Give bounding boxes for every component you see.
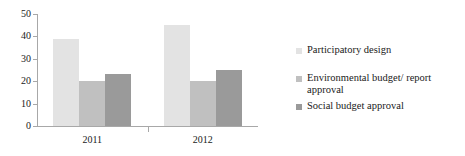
- legend-swatch-icon: [296, 48, 302, 54]
- bar: [164, 25, 190, 126]
- y-axis-tick: [33, 81, 37, 82]
- y-axis-line: [37, 14, 38, 127]
- y-axis-tick: [33, 126, 37, 127]
- x-axis-category-label: 2012: [173, 134, 233, 145]
- bar: [216, 70, 242, 126]
- bar: [53, 39, 79, 126]
- legend-label: Environmental budget/ report approval: [307, 72, 465, 96]
- y-axis-tick-label: 20: [0, 76, 31, 86]
- bar: [79, 81, 105, 126]
- y-axis-tick: [33, 36, 37, 37]
- chart-legend: Participatory designEnvironmental budget…: [296, 0, 465, 156]
- plot-area: 01020304050 20112012: [0, 0, 262, 156]
- x-axis-category-label: 2011: [62, 134, 122, 145]
- y-axis-tick: [33, 59, 37, 60]
- legend-swatch-icon: [296, 104, 302, 110]
- legend-entry[interactable]: Environmental budget/ report approval: [296, 72, 465, 96]
- y-axis-tick: [33, 14, 37, 15]
- legend-label: Social budget approval: [307, 100, 404, 112]
- legend-entry[interactable]: Social budget approval: [296, 100, 465, 112]
- bar: [190, 81, 216, 126]
- legend-entry[interactable]: Participatory design: [296, 44, 465, 56]
- y-axis-tick: [33, 104, 37, 105]
- y-axis-tick-label: 0: [0, 121, 31, 131]
- legend-label: Participatory design: [307, 44, 391, 56]
- bar: [105, 74, 131, 126]
- x-axis-tick: [148, 127, 149, 132]
- bar-chart: 01020304050 20112012 Participatory desig…: [0, 0, 465, 156]
- y-axis-tick-label: 30: [0, 54, 31, 64]
- y-axis-tick-label: 10: [0, 99, 31, 109]
- y-axis-tick-label: 40: [0, 31, 31, 41]
- legend-swatch-icon: [296, 76, 302, 82]
- y-axis-tick-label: 50: [0, 9, 31, 19]
